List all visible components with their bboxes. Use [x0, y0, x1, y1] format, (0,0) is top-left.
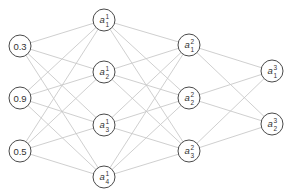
edge-h1_1-h2_1	[104, 20, 189, 45]
node-superscript: 2	[191, 91, 195, 98]
node-subscript: 1	[191, 46, 195, 53]
node-superscript: 2	[191, 38, 195, 45]
node-var: a	[100, 119, 105, 130]
node-subscript: 1	[106, 21, 110, 28]
node-h2_3: a23	[178, 140, 200, 162]
edge-h2_1-out1	[189, 45, 272, 71]
node-subscript: 3	[191, 152, 195, 159]
node-subscript: 2	[274, 125, 278, 132]
node-label: 0.9	[13, 93, 26, 104]
node-superscript: 2	[191, 144, 195, 151]
node-out2: a32	[261, 113, 283, 135]
node-h1_2: a12	[93, 61, 115, 83]
edge-h2_3-out1	[189, 71, 272, 151]
edge-h1_3-h2_1	[104, 45, 189, 125]
node-subscript: 4	[106, 178, 110, 185]
node-in3: 0.5	[9, 140, 31, 162]
node-var: a	[100, 14, 105, 25]
edge-in3-h1_1	[20, 20, 104, 151]
edge-h1_4-h2_2	[104, 98, 189, 177]
node-superscript: 3	[274, 64, 278, 71]
connections	[20, 20, 272, 177]
node-var: a	[268, 65, 273, 76]
node-out1: a31	[261, 60, 283, 82]
node-h1_3: a13	[93, 114, 115, 136]
edge-in3-h1_3	[20, 125, 104, 151]
node-superscript: 1	[106, 65, 110, 72]
node-h1_1: a11	[93, 9, 115, 31]
node-superscript: 1	[106, 13, 110, 20]
node-subscript: 1	[274, 72, 278, 79]
node-var: a	[185, 145, 190, 156]
edge-h1_4-h2_3	[104, 151, 189, 177]
edge-h1_2-h2_1	[104, 45, 189, 72]
edge-h2_2-out1	[189, 71, 272, 98]
neural-network-diagram: 0.30.90.5a11a12a13a14a21a22a23a31a32	[0, 0, 289, 194]
edge-in3-h1_2	[20, 72, 104, 151]
node-superscript: 1	[106, 170, 110, 177]
node-h2_1: a21	[178, 34, 200, 56]
node-var: a	[100, 66, 105, 77]
node-superscript: 1	[106, 118, 110, 125]
node-in1: 0.3	[9, 35, 31, 57]
edge-in2-h1_4	[20, 98, 104, 177]
node-var: a	[185, 92, 190, 103]
node-var: a	[185, 39, 190, 50]
node-h1_4: a14	[93, 166, 115, 188]
edge-h2_3-out2	[189, 124, 272, 151]
edge-h1_4-h2_1	[104, 45, 189, 177]
edge-in1-h1_1	[20, 20, 104, 46]
node-subscript: 2	[191, 99, 195, 106]
node-label: 0.5	[13, 146, 26, 157]
node-in2: 0.9	[9, 87, 31, 109]
node-subscript: 3	[106, 126, 110, 133]
node-var: a	[268, 118, 273, 129]
node-subscript: 2	[106, 73, 110, 80]
edge-in3-h1_4	[20, 151, 104, 177]
node-var: a	[100, 171, 105, 182]
node-h2_2: a22	[178, 87, 200, 109]
node-superscript: 3	[274, 117, 278, 124]
node-label: 0.3	[13, 41, 26, 52]
neurons: 0.30.90.5a11a12a13a14a21a22a23a31a32	[9, 9, 283, 188]
